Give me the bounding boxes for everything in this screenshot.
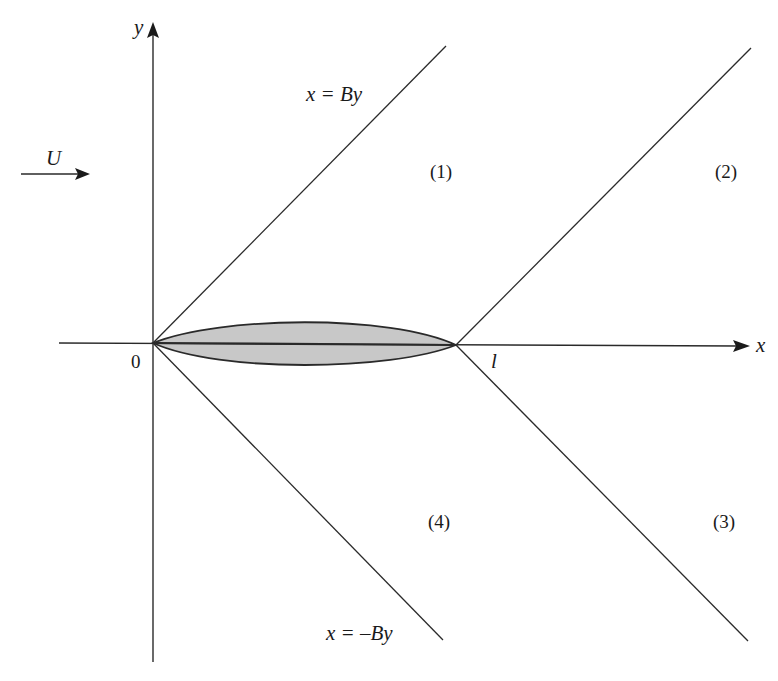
freestream-label: U (46, 146, 63, 170)
region-1-label: (1) (430, 161, 452, 183)
region-2-label: (2) (715, 161, 737, 183)
region-4-label: (4) (428, 511, 450, 533)
airfoil-diagram: x y 0 l x = By x = –By U (1) (2) (3) (4) (0, 0, 778, 681)
mach-line-trailing-lower (456, 345, 748, 641)
origin-label: 0 (131, 351, 141, 372)
mach-line-upper-equation: x = By (305, 82, 363, 106)
y-axis-label: y (132, 15, 144, 39)
mach-line-leading-lower (153, 343, 443, 640)
mach-line-trailing-upper (456, 48, 751, 345)
region-3-label: (3) (713, 511, 735, 533)
mach-line-leading-upper (153, 46, 446, 343)
x-axis-label: x (755, 333, 766, 357)
chord-end-label: l (491, 349, 497, 373)
mach-line-lower-equation: x = –By (325, 621, 393, 645)
